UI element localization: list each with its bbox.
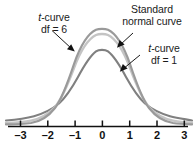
x-tick-label: –1 [65, 129, 85, 142]
label-t-curve-df1-line1: t-curve [138, 43, 190, 55]
label-t-curve-df6: t-curve df = 6 [30, 12, 78, 35]
x-tick-label: 2 [147, 129, 167, 142]
x-tick-label: 3 [174, 129, 194, 142]
x-tick-label: –2 [38, 129, 58, 142]
x-tick-label: 1 [120, 129, 140, 142]
label-t-curve-df6-line2: df = 6 [30, 24, 78, 36]
label-standard-normal-line2: normal curve [113, 16, 191, 28]
label-t-curve-df1: t-curve df = 1 [138, 43, 190, 66]
label-standard-normal-curve: Standard normal curve [113, 4, 191, 27]
label-t-curve-df6-line1: t-curve [30, 12, 78, 24]
x-tick-label: 0 [92, 129, 112, 142]
x-axis-ticks [21, 121, 185, 127]
t-curve-text: -curve [151, 42, 180, 54]
t-distribution-figure: t-curve df = 6 Standard normal curve t-c… [0, 0, 194, 144]
x-tick-label: –3 [11, 129, 31, 142]
label-standard-normal-line1: Standard [113, 4, 191, 16]
label-t-curve-df1-line2: df = 1 [138, 55, 190, 67]
t-curve-text: -curve [41, 11, 70, 23]
